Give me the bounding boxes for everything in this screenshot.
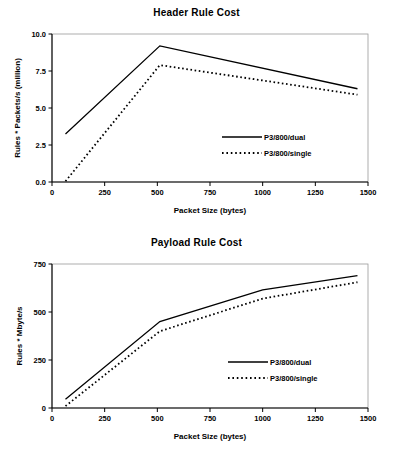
x-axis-title: Packet Size (bytes) bbox=[174, 206, 247, 215]
x-tick-label: 1500 bbox=[360, 188, 377, 197]
x-tick-label: 250 bbox=[98, 414, 111, 423]
x-tick-label: 0 bbox=[50, 414, 54, 423]
y-tick-label: 750 bbox=[33, 260, 46, 269]
legend-label: P3/800/dual bbox=[270, 358, 311, 367]
series-line-p3-800-single bbox=[65, 282, 357, 406]
y-tick-label: 7.5 bbox=[36, 67, 46, 76]
x-tick-label: 1250 bbox=[307, 414, 324, 423]
chart-payload-rule-cost: Payload Rule Cost 0250500750025050075010… bbox=[0, 228, 393, 455]
y-tick-label: 5.0 bbox=[36, 104, 46, 113]
series-line-p3-800-dual bbox=[65, 46, 357, 134]
y-tick-label: 250 bbox=[33, 356, 46, 365]
chart-plot-header: 0.02.55.07.510.00250500750100012501500Pa… bbox=[0, 0, 393, 228]
chart-plot-payload: 02505007500250500750100012501500Packet S… bbox=[0, 228, 393, 455]
x-tick-label: 1250 bbox=[307, 188, 324, 197]
y-tick-label: 0.0 bbox=[36, 178, 46, 187]
x-axis-title: Packet Size (bytes) bbox=[174, 432, 247, 441]
chart-header-rule-cost: Header Rule Cost 0.02.55.07.510.00250500… bbox=[0, 0, 393, 228]
legend-label: P3/800/single bbox=[270, 374, 318, 383]
y-axis-title: Rules * Packets/s (million) bbox=[13, 58, 22, 158]
series-line-p3-800-single bbox=[65, 65, 357, 181]
legend-label: P3/800/dual bbox=[264, 133, 305, 142]
x-tick-label: 750 bbox=[204, 188, 217, 197]
y-axis-title: Rules * Mbyte/s bbox=[15, 306, 24, 366]
y-tick-label: 2.5 bbox=[36, 141, 46, 150]
legend-label: P3/800/single bbox=[264, 149, 312, 158]
x-tick-label: 1000 bbox=[254, 414, 271, 423]
x-tick-label: 750 bbox=[204, 414, 217, 423]
x-tick-label: 250 bbox=[98, 188, 111, 197]
y-tick-label: 0 bbox=[42, 404, 46, 413]
x-tick-label: 500 bbox=[151, 188, 164, 197]
x-tick-label: 1000 bbox=[254, 188, 271, 197]
x-tick-label: 500 bbox=[151, 414, 164, 423]
y-tick-label: 500 bbox=[33, 308, 46, 317]
x-tick-label: 0 bbox=[50, 188, 54, 197]
y-tick-label: 10.0 bbox=[31, 30, 46, 39]
x-tick-label: 1500 bbox=[360, 414, 377, 423]
plot-border bbox=[52, 264, 368, 408]
